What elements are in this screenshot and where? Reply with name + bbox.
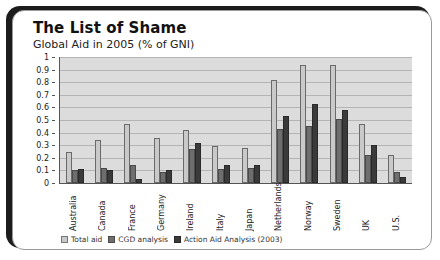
bar-group bbox=[66, 57, 84, 183]
x-tick-cell: Australia bbox=[59, 187, 88, 231]
x-tick-cell: Sweden bbox=[323, 187, 352, 231]
y-tick-label: 0.3 bbox=[36, 141, 49, 150]
y-tick-label: 0.1 bbox=[36, 166, 49, 175]
x-tick-cell: Japan bbox=[235, 187, 264, 231]
y-tick-label: 0.4 bbox=[36, 128, 49, 137]
chart-card: The List of Shame Global Aid in 2005 (% … bbox=[12, 10, 432, 250]
page-subtitle: Global Aid in 2005 (% of GNI) bbox=[33, 38, 194, 51]
bar bbox=[254, 165, 260, 183]
bar-group bbox=[388, 57, 406, 183]
bar-group bbox=[271, 57, 289, 183]
x-tick-cell: Netherlands bbox=[264, 187, 293, 231]
x-tick-label: Germany bbox=[157, 187, 166, 231]
y-tick-label: 1 bbox=[44, 53, 49, 62]
page-title: The List of Shame bbox=[33, 19, 187, 37]
x-tick-cell: France bbox=[118, 187, 147, 231]
x-tick-label: Canada bbox=[98, 187, 107, 231]
plot-area bbox=[59, 57, 412, 184]
bar-group bbox=[183, 57, 201, 183]
y-tick-label: 0.5 bbox=[36, 116, 49, 125]
bar-group bbox=[95, 57, 113, 183]
x-tick-cell: Germany bbox=[147, 187, 176, 231]
bar bbox=[400, 177, 406, 183]
x-tick-label: Sweden bbox=[333, 187, 342, 231]
bar bbox=[166, 170, 172, 183]
y-tick-mark bbox=[52, 133, 55, 134]
y-axis: 00.10.20.30.40.50.60.70.80.91 bbox=[33, 57, 55, 183]
bar-group bbox=[242, 57, 260, 183]
y-tick-mark bbox=[52, 57, 55, 58]
legend-swatch-icon bbox=[174, 236, 181, 243]
bar bbox=[371, 145, 377, 183]
y-tick-label: 0 bbox=[44, 179, 49, 188]
y-tick-mark bbox=[52, 183, 55, 184]
bar bbox=[195, 143, 201, 183]
legend-label: Total aid bbox=[71, 235, 102, 244]
y-tick-label: 0.9 bbox=[36, 65, 49, 74]
legend-label: Action Aid Analysis (2003) bbox=[184, 235, 282, 244]
bar-group bbox=[154, 57, 172, 183]
x-tick-cell: Canada bbox=[88, 187, 117, 231]
chart-legend: Total aidCGD analysisAction Aid Analysis… bbox=[61, 233, 401, 246]
y-tick-label: 0.7 bbox=[36, 90, 49, 99]
bar-group bbox=[124, 57, 142, 183]
legend-swatch-icon bbox=[108, 236, 115, 243]
x-tick-label: UK bbox=[362, 187, 371, 231]
bar bbox=[224, 165, 230, 183]
bar bbox=[107, 170, 113, 183]
x-axis: AustraliaCanadaFranceGermanyIrelandItaly… bbox=[59, 187, 411, 231]
y-tick-mark bbox=[52, 120, 55, 121]
y-tick-mark bbox=[52, 145, 55, 146]
y-tick-mark bbox=[52, 107, 55, 108]
x-tick-cell: Ireland bbox=[176, 187, 205, 231]
x-tick-label: Italy bbox=[216, 187, 225, 231]
legend-item[interactable]: Action Aid Analysis (2003) bbox=[174, 235, 282, 244]
legend-swatch-icon bbox=[61, 236, 68, 243]
y-tick-label: 0.6 bbox=[36, 103, 49, 112]
bar bbox=[342, 110, 348, 183]
y-tick-label: 0.2 bbox=[36, 153, 49, 162]
legend-label: CGD analysis bbox=[118, 235, 168, 244]
bar-group bbox=[300, 57, 318, 183]
screenshot-stage: The List of Shame Global Aid in 2005 (% … bbox=[0, 0, 440, 260]
x-tick-label: Australia bbox=[69, 187, 78, 231]
bar-group bbox=[359, 57, 377, 183]
plot-wrapper: 00.10.20.30.40.50.60.70.80.91 bbox=[33, 57, 415, 189]
y-tick-mark bbox=[52, 158, 55, 159]
y-tick-mark bbox=[52, 70, 55, 71]
bar-group bbox=[212, 57, 230, 183]
bar bbox=[78, 169, 84, 183]
x-tick-cell: UK bbox=[352, 187, 381, 231]
x-tick-label: Netherlands bbox=[274, 187, 283, 231]
bar-groups bbox=[60, 57, 412, 183]
y-tick-mark bbox=[52, 170, 55, 171]
x-tick-cell: Norway bbox=[294, 187, 323, 231]
legend-item[interactable]: CGD analysis bbox=[108, 235, 168, 244]
x-tick-label: U.S. bbox=[392, 187, 401, 231]
y-tick-mark bbox=[52, 95, 55, 96]
y-tick-mark bbox=[52, 82, 55, 83]
x-tick-label: Norway bbox=[304, 187, 313, 231]
x-tick-label: France bbox=[128, 187, 137, 231]
x-tick-cell: Italy bbox=[206, 187, 235, 231]
bar bbox=[283, 116, 289, 183]
x-tick-label: Japan bbox=[245, 187, 254, 231]
x-tick-cell: U.S. bbox=[382, 187, 411, 231]
x-tick-label: Ireland bbox=[186, 187, 195, 231]
legend-item[interactable]: Total aid bbox=[61, 235, 102, 244]
bar-group bbox=[330, 57, 348, 183]
bar bbox=[136, 179, 142, 183]
y-tick-label: 0.8 bbox=[36, 78, 49, 87]
bar bbox=[312, 104, 318, 183]
